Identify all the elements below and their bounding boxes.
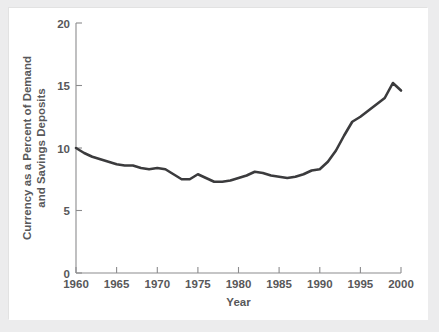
x-tick-label: 1970 (145, 278, 171, 290)
x-tick-label: 1975 (185, 278, 211, 290)
x-tick-label: 1990 (307, 278, 333, 290)
x-tick-labels: 1960 1965 1970 1975 1980 1985 1990 1995 … (63, 278, 414, 290)
x-tick-label: 2000 (388, 278, 414, 290)
x-tick-label: 1980 (226, 278, 252, 290)
y-tick-label: 15 (57, 80, 70, 92)
x-tick-label: 1960 (63, 278, 89, 290)
x-axis-title: Year (226, 296, 251, 308)
y-axis-title-line2: and Savings Deposits (35, 88, 47, 208)
y-axis-title-line1: Currency as a Percent of Demand (21, 56, 33, 240)
x-tick-label: 1985 (266, 278, 292, 290)
y-tick-label: 5 (64, 205, 71, 217)
y-tick-label: 20 (57, 18, 70, 30)
figure-root: 20 15 10 5 0 1960 1965 1970 1975 1980 19… (0, 0, 439, 332)
chart-card: 20 15 10 5 0 1960 1965 1970 1975 1980 19… (8, 7, 427, 319)
x-tick-label: 1965 (104, 278, 130, 290)
line-chart: 20 15 10 5 0 1960 1965 1970 1975 1980 19… (9, 8, 428, 320)
y-tick-label: 10 (57, 143, 70, 155)
x-tick-label: 1995 (348, 278, 374, 290)
